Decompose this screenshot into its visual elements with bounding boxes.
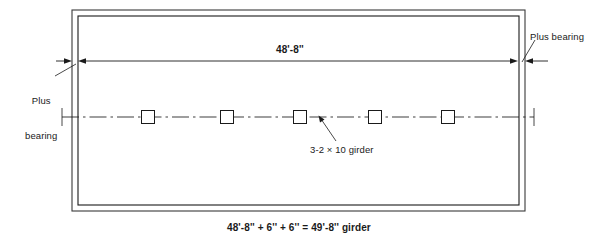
plus-bearing-right-arrow xyxy=(525,58,533,64)
support-post-symbol xyxy=(369,111,382,124)
girder-callout-leader-arrow xyxy=(319,116,325,123)
support-post-symbol xyxy=(442,111,455,124)
girder-callout-leader xyxy=(319,116,337,142)
plus-bearing-left-extension xyxy=(55,58,76,76)
drawing-sheet: Plus bearing Plus bearing 48'-8'' 3-2 × … xyxy=(0,0,612,243)
plus-bearing-right-label: Plus bearing xyxy=(530,31,584,43)
plus-bearing-left-label-line1: Plus xyxy=(25,95,57,107)
span-dimension xyxy=(78,58,518,64)
support-post-symbol xyxy=(221,111,234,124)
plus-bearing-left-arrow xyxy=(64,58,72,64)
framing-plan-svg xyxy=(0,0,612,243)
span-dimension-arrow-right xyxy=(510,58,518,64)
girder-callout-label: 3-2 × 10 girder xyxy=(310,144,374,156)
plus-bearing-right-extension xyxy=(522,40,548,64)
support-post-symbol xyxy=(294,111,307,124)
plus-bearing-right-leader xyxy=(522,40,535,62)
support-post-symbol xyxy=(142,111,155,124)
bottom-caption-label: 48'-8'' + 6'' + 6'' = 49'-8'' girder xyxy=(227,222,371,234)
plus-bearing-left-label-line2: bearing xyxy=(25,130,57,142)
plus-bearing-left-label: Plus bearing xyxy=(25,72,57,164)
span-dimension-arrow-left xyxy=(78,58,86,64)
span-dimension-label: 48'-8'' xyxy=(276,44,304,56)
plus-bearing-left-leader xyxy=(55,64,76,76)
girder-callout-leader-line xyxy=(321,119,336,141)
